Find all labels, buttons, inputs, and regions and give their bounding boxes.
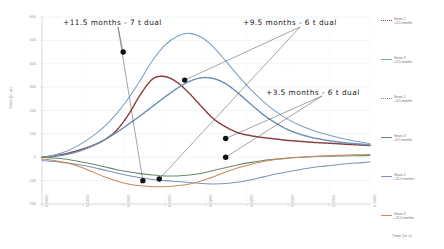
axis-lines xyxy=(40,17,370,207)
legend-swatch-icon xyxy=(381,98,392,99)
marker-dot-5 xyxy=(223,155,228,160)
legend-label: Strain-1+3.5 months xyxy=(394,95,412,104)
legend-item-3[interactable]: Strain-3+9.5 months xyxy=(381,134,444,150)
marker-dot-1 xyxy=(120,49,125,54)
annotation-label-0: +11.5 months - 7 t dual xyxy=(63,18,162,27)
legend-label: Strain-2+3.5 months xyxy=(394,17,412,26)
legend-label: Strain-2+11.5 months xyxy=(394,173,414,182)
legend-item-1[interactable]: Strain-3+3.5 months xyxy=(381,56,444,72)
chart-figure: Strain (in µε) Time (in s) 6005004003002… xyxy=(0,0,444,249)
legend-label-line2: +3.5 months xyxy=(394,99,412,103)
plot-area xyxy=(0,0,444,249)
legend-swatch-icon xyxy=(381,215,392,216)
legend-label: Strain-3+11.5 months xyxy=(394,212,414,221)
legend-label: Strain-3+3.5 months xyxy=(394,56,412,65)
legend-swatch-icon xyxy=(381,59,392,60)
legend-label-line2: +11.5 months xyxy=(394,216,414,220)
legend-item-0[interactable]: Strain-2+3.5 months xyxy=(381,17,444,33)
marker-dot-0 xyxy=(140,178,145,183)
legend-swatch-icon xyxy=(381,20,392,21)
annotation-label-1: +9.5 months - 6 t dual xyxy=(243,18,337,27)
legend-label: Strain-3+9.5 months xyxy=(394,134,412,143)
legend-label-line2: +9.5 months xyxy=(394,138,412,142)
legend-swatch-icon xyxy=(381,137,392,138)
annotation-markers xyxy=(120,49,228,183)
marker-dot-3 xyxy=(182,77,187,82)
marker-dot-2 xyxy=(157,176,162,181)
legend-item-4[interactable]: Strain-2+11.5 months xyxy=(381,173,444,189)
legend-swatch-icon xyxy=(381,176,392,177)
legend-label-line2: +3.5 months xyxy=(394,60,412,64)
legend-item-2[interactable]: Strain-1+3.5 months xyxy=(381,95,444,111)
legend-label-line2: +11.5 months xyxy=(394,177,414,181)
marker-dot-4 xyxy=(223,136,228,141)
legend-label-line2: +3.5 months xyxy=(394,21,412,25)
annotation-label-2: +3.5 months - 6 t dual xyxy=(266,88,360,97)
legend-item-5[interactable]: Strain-3+11.5 months xyxy=(381,212,444,228)
